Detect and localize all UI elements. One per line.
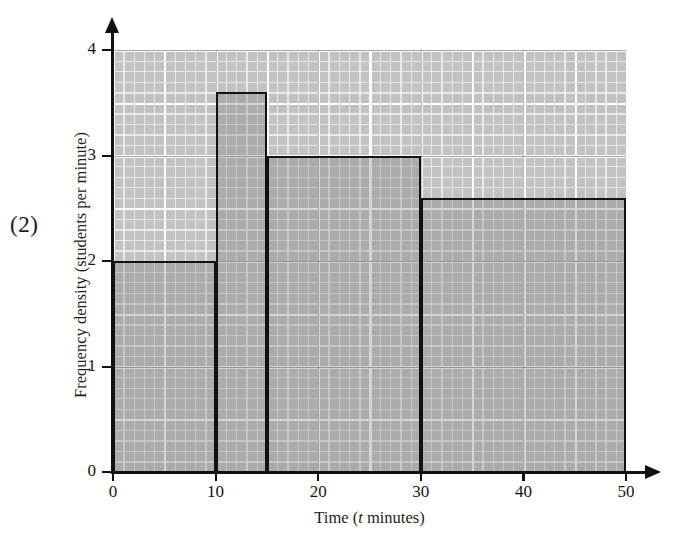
x-tick-30 (420, 471, 422, 481)
y-tick-label-2: 2 (76, 250, 96, 270)
y-tick-3 (102, 155, 112, 157)
y-axis-arrow-icon (105, 17, 119, 33)
y-axis-line (111, 28, 114, 474)
x-axis-label: Time (t minutes) (113, 508, 626, 528)
marks-label: (2) (10, 212, 38, 238)
x-axis-arrow-icon (645, 465, 661, 479)
y-tick-4 (102, 49, 112, 51)
y-tick-label-1: 1 (76, 356, 96, 376)
x-tick-0 (112, 471, 114, 481)
histogram-figure: (2) Frequency density (students per minu… (0, 0, 690, 556)
y-tick-label-0: 0 (76, 461, 96, 481)
x-tick-label-20: 20 (298, 482, 338, 502)
histogram-bar-0 (113, 261, 216, 472)
x-tick-20 (317, 471, 319, 481)
x-tick-10 (215, 471, 217, 481)
y-tick-0 (102, 471, 112, 473)
y-tick-2 (102, 260, 112, 262)
x-axis-label-prefix: Time ( (314, 508, 358, 527)
histogram-bar-2 (267, 156, 421, 473)
histogram-bar-1 (216, 92, 267, 472)
y-tick-label-3: 3 (76, 145, 96, 165)
x-tick-label-10: 10 (196, 482, 236, 502)
y-tick-1 (102, 366, 112, 368)
plot-area (113, 50, 626, 472)
x-tick-label-30: 30 (401, 482, 441, 502)
x-tick-label-0: 0 (93, 482, 133, 502)
x-tick-40 (522, 471, 524, 481)
gridline-y-4 (113, 50, 626, 51)
y-tick-label-4: 4 (76, 39, 96, 59)
x-axis-label-suffix: minutes) (363, 508, 425, 527)
histogram-bar-3 (421, 198, 626, 472)
x-tick-label-50: 50 (606, 482, 646, 502)
x-axis-line (113, 471, 649, 474)
x-tick-50 (625, 471, 627, 481)
x-tick-label-40: 40 (503, 482, 543, 502)
